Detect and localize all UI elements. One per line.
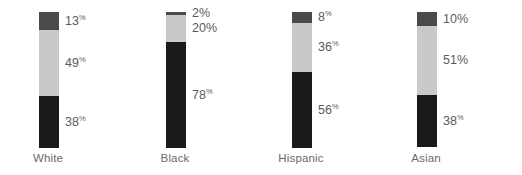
percent-sign: % [457, 53, 468, 67]
segment-value-label: 8% [318, 11, 332, 25]
percent-sign: % [332, 102, 339, 111]
bar-segment-bottom: 38% [417, 95, 437, 147]
bar-segment-middle: 20% [166, 15, 186, 42]
segment-value-label: 36% [318, 41, 339, 55]
stacked-bar: 13%49%38% [39, 12, 59, 148]
category-label-hispanic: Hispanic [267, 153, 335, 165]
stacked-bar-chart: 13%49%38%White2%20%78%Black8%36%56%Hispa… [0, 0, 522, 175]
segment-value-label: 13% [65, 14, 86, 28]
stacked-bar: 10%51%38% [417, 12, 437, 148]
category-label-white: White [14, 153, 82, 165]
bar-segment-middle: 51% [417, 26, 437, 95]
segment-value-label: 10% [443, 13, 468, 26]
segment-value-label: 78% [192, 88, 213, 102]
bar-group-white: 13%49%38%White [39, 0, 165, 175]
percent-sign: % [206, 21, 217, 35]
percent-sign: % [79, 55, 86, 64]
bar-segment-middle: 36% [292, 23, 312, 72]
stacked-bar: 8%36%56% [292, 12, 312, 148]
bar-segment-bottom: 78% [166, 42, 186, 148]
bar-segment-bottom: 56% [292, 72, 312, 148]
percent-sign: % [199, 6, 210, 20]
segment-value-label: 49% [65, 56, 86, 70]
bar-segment-top: 10% [417, 12, 437, 26]
segment-value-label: 56% [318, 103, 339, 117]
bar-segment-bottom: 38% [39, 96, 59, 148]
segment-value-label: 38% [443, 114, 464, 128]
bar-group-black: 2%20%78%Black [166, 0, 292, 175]
percent-sign: % [332, 40, 339, 49]
segment-value-label: 38% [65, 115, 86, 129]
bar-segment-top: 8% [292, 12, 312, 23]
bar-segment-middle: 49% [39, 30, 59, 97]
percent-sign: % [206, 87, 213, 96]
bar-group-asian: 10%51%38%Asian [417, 0, 522, 175]
segment-value-label: 20% [192, 22, 217, 35]
percent-sign: % [457, 12, 468, 26]
percent-sign: % [457, 113, 464, 122]
percent-sign: % [79, 13, 86, 22]
bar-segment-top: 13% [39, 12, 59, 30]
segment-value-label: 51% [443, 54, 468, 67]
percent-sign: % [325, 10, 332, 19]
stacked-bar: 2%20%78% [166, 12, 186, 148]
category-label-asian: Asian [392, 153, 460, 165]
percent-sign: % [79, 114, 86, 123]
category-label-black: Black [141, 153, 209, 165]
bar-group-hispanic: 8%36%56%Hispanic [292, 0, 418, 175]
segment-value-label: 2% [192, 7, 210, 20]
